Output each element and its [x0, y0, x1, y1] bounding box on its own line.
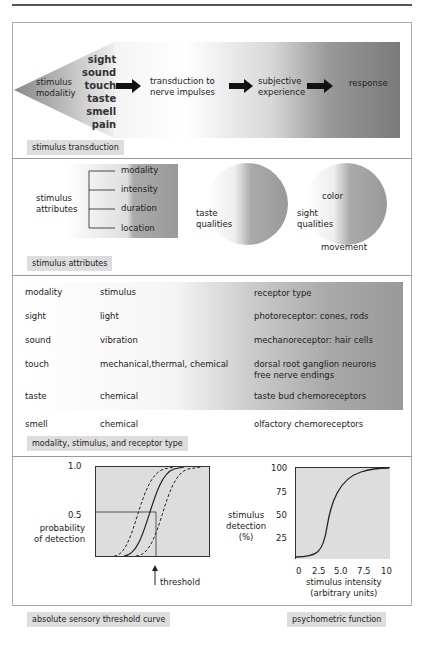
xtick: 7.5	[357, 566, 371, 577]
xtick: 10	[381, 566, 392, 577]
threshold-ylabel: probability of detection	[34, 523, 85, 545]
attribute-item: modality	[121, 165, 158, 176]
table-cell: olfactory chemoreceptors	[254, 419, 363, 430]
table-header: modality	[25, 287, 62, 298]
ytick: 1.0	[68, 461, 82, 472]
arrow-icon	[229, 83, 245, 89]
sight-qualities-circle	[305, 163, 387, 245]
caption-stimulus-attributes: stimulus attributes	[27, 256, 112, 271]
sight-qualities-label: sight qualities	[297, 208, 333, 230]
threshold-plot	[95, 466, 210, 557]
caption-stimulus-transduction: stimulus transduction	[27, 140, 124, 155]
section-divider	[12, 275, 412, 276]
bracket-icon	[88, 168, 116, 232]
arrow-icon	[116, 83, 133, 89]
step-response: response	[349, 78, 388, 89]
stimulus-attributes-label: stimulus attributes	[36, 193, 78, 215]
arrow-up-icon	[150, 565, 160, 585]
stimulus-modality-label: stimulus modalitiy	[36, 77, 76, 99]
table-cell: sound	[25, 335, 51, 346]
table-cell: photoreceptor: cones, rods	[254, 311, 368, 322]
caption-threshold-curve: absolute sensory threshold curve	[27, 612, 170, 627]
table-cell: vibration	[100, 335, 138, 346]
psychometric-curve	[295, 467, 390, 559]
ytick: 50	[276, 510, 287, 521]
table-cell: smell	[25, 419, 48, 430]
table-cell: chemical	[100, 419, 138, 430]
table-header: receptor type	[254, 288, 312, 299]
psychometric-xlabel: stimulus intensity (arbitrary units)	[306, 577, 382, 599]
table-cell: touch	[25, 359, 49, 370]
table-cell: mechanoreceptor: hair cells	[254, 335, 373, 346]
xtick: 2.5	[312, 566, 326, 577]
modality-item: pain	[82, 118, 116, 131]
step-subjective-experience: subjective experience	[258, 76, 305, 98]
modality-item: sight	[82, 53, 116, 66]
attribute-item: location	[121, 223, 155, 234]
caption-receptor-type: modality, stimulus, and receptor type	[27, 436, 188, 451]
table-cell: chemical	[100, 391, 138, 402]
threshold-curves	[96, 467, 209, 556]
modality-item: taste	[82, 92, 116, 105]
modality-item: sound	[82, 66, 116, 79]
header-rule	[12, 4, 412, 6]
psychometric-plot	[295, 467, 390, 559]
sight-movement-label: movement	[321, 242, 367, 253]
table-cell: sight	[25, 311, 46, 322]
caption-psychometric: psychometric function	[287, 612, 386, 627]
xtick: 5.0	[334, 566, 348, 577]
attribute-item: duration	[121, 203, 157, 214]
threshold-annotation: threshold	[160, 577, 200, 588]
taste-qualities-label: taste qualities	[196, 208, 232, 230]
modality-list: sight sound touch taste smell pain	[82, 53, 116, 131]
ytick: 0.5	[68, 510, 82, 521]
modality-item: smell	[82, 105, 116, 118]
table-cell: taste bud chemoreceptors	[254, 391, 366, 402]
table-header: stimulus	[100, 287, 136, 298]
ytick: 75	[276, 487, 287, 498]
section-divider	[12, 456, 412, 457]
xtick: 0	[296, 566, 301, 577]
psychometric-ylabel: stimulus detection (%)	[226, 510, 266, 543]
taste-qualities-circle	[206, 163, 288, 245]
table-cell: mechanical,thermal, chemical	[100, 359, 228, 370]
step-transduction: transduction to nerve impulses	[150, 76, 215, 98]
table-cell: taste	[25, 391, 47, 402]
ytick: 100	[271, 463, 287, 474]
attribute-item: intensity	[121, 184, 158, 195]
arrow-icon	[307, 83, 325, 89]
section-divider	[12, 158, 412, 159]
table-cell: light	[100, 311, 119, 322]
sight-color-label: color	[322, 191, 343, 202]
ytick: 25	[276, 533, 287, 544]
modality-item: touch	[82, 79, 116, 92]
table-cell: dorsal root ganglion neurons free nerve …	[254, 359, 376, 381]
